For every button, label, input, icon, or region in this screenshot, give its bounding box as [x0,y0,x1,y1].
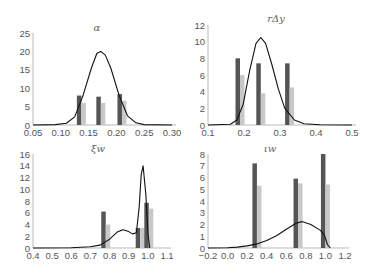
x-tick-label: 0.8 [299,250,312,261]
panel-title: rΔy [267,13,285,24]
y-tick-label: 15 [19,64,30,75]
y-tick-label: 8 [25,196,30,207]
x-tick-label: 1.0 [319,250,332,261]
density-curve [33,166,150,248]
density-curve [208,38,352,126]
x-tick-label: 0.9 [122,250,135,261]
panel-alpha: α 05101520250.050.100.150.200.250.30 [19,22,181,138]
figure-2x2-histograms: α 05101520250.050.100.150.200.250.30 rΔy… [0,0,368,276]
x-tick-label: 0.25 [135,127,154,138]
y-tick-label: 12 [194,20,205,31]
y-tick-label: 4 [25,219,30,230]
y-tick-label: 20 [19,46,30,57]
bar-light [257,186,262,248]
bar-light [106,225,111,249]
x-tick-label: 1.0 [141,250,154,261]
y-tick-label: 6 [200,172,205,183]
y-tick-label: 7 [200,160,205,171]
x-tick-label: 0.4 [26,250,39,261]
y-tick-label: 3 [200,207,205,218]
panel-iota-w: ιw 012345678−0.20.00.20.40.60.81.01.2 [199,143,352,261]
y-tick-label: 14 [19,160,30,171]
bar-dark [285,63,290,125]
y-tick-label: 25 [19,28,30,39]
x-tick-label: 1.1 [160,250,173,261]
x-tick-label: 0.30 [163,127,182,138]
y-tick-label: 2 [25,231,30,242]
x-tick-label: 0.10 [52,127,71,138]
y-tick-label: 5 [200,184,205,195]
y-tick-label: 10 [19,83,30,94]
bar-dark [96,97,101,125]
x-tick-label: 0.8 [103,250,116,261]
y-tick-label: 16 [19,149,30,160]
y-tick-label: 4 [200,86,205,97]
x-tick-label: 0.3 [273,127,286,138]
y-tick-label: 10 [194,36,205,47]
y-tick-label: 5 [25,101,30,112]
x-tick-label: 0.4 [309,127,322,138]
bar-dark [117,94,122,125]
x-tick-label: 0.2 [241,250,254,261]
y-tick-label: 8 [200,149,205,160]
panel-r-delta-y: rΔy 0246810120.10.20.30.40.5 [194,13,358,138]
panel-xi-w: ξw 02468101214160.40.50.60.70.80.91.01.1 [19,143,173,261]
y-tick-label: 6 [200,70,205,81]
density-curve [208,222,330,248]
y-tick-label: 2 [200,103,205,114]
y-tick-label: 1 [200,231,205,242]
x-tick-label: 0.15 [79,127,98,138]
y-tick-label: 2 [200,219,205,230]
bar-light [261,93,266,125]
panel-title: α [94,22,101,33]
x-tick-label: 0.6 [280,250,293,261]
bar-light [140,228,145,248]
x-tick-label: 0.5 [345,127,358,138]
bar-light [298,183,303,248]
x-tick-label: 0.2 [237,127,250,138]
x-tick-label: 0.0 [221,250,234,261]
bar-light [101,103,106,125]
y-tick-label: 10 [19,184,30,195]
y-tick-label: 8 [200,53,205,64]
bar-dark [256,63,261,125]
x-tick-label: 0.4 [260,250,273,261]
panel-title: ξw [91,143,106,154]
y-tick-label: 12 [19,172,30,183]
y-tick-label: 4 [200,196,205,207]
bar-light [325,185,330,248]
bar-light [81,103,86,125]
x-tick-label: 1.2 [338,250,351,261]
bar-dark [252,163,257,248]
x-tick-label: 0.6 [65,250,78,261]
x-tick-label: 0.1 [201,127,214,138]
panel-title: ιw [264,143,277,154]
x-tick-label: 0.20 [107,127,126,138]
x-tick-label: −0.2 [199,250,218,261]
x-tick-label: 0.05 [24,127,43,138]
chart-canvas: α 05101520250.050.100.150.200.250.30 rΔy… [0,0,368,276]
x-tick-label: 0.7 [84,250,97,261]
x-tick-label: 0.5 [46,250,59,261]
bar-dark [294,179,299,248]
y-tick-label: 6 [25,207,30,218]
